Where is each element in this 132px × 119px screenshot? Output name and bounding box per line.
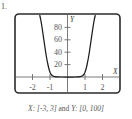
y-tick-label-80: 80 xyxy=(54,23,62,32)
y-tick-label-60: 60 xyxy=(54,35,62,44)
calculator-screen: 20 40 60 80 -2 -1 1 2 Y X xyxy=(14,13,121,94)
x-axis-label: X xyxy=(112,67,118,76)
x-tick-label-2: 2 xyxy=(101,83,105,92)
caption-y-range: Y: [0, 100] xyxy=(71,104,104,113)
figure-container: 1. 20 40 60 80 -2 -1 xyxy=(0,0,132,119)
graph-svg: 20 40 60 80 -2 -1 1 2 Y X xyxy=(14,13,121,94)
y-tick-label-20: 20 xyxy=(54,60,62,69)
viewing-window-caption: X: [-3, 3] and Y: [0, 100] xyxy=(0,104,132,113)
x-tick-label-minus2: -2 xyxy=(29,83,36,92)
caption-conjunction: and xyxy=(57,104,72,113)
y-tick-label-40: 40 xyxy=(54,48,62,57)
x-tick-label-1: 1 xyxy=(83,83,87,92)
x-tick-label-minus1: -1 xyxy=(47,83,54,92)
caption-x-range: X: [-3, 3] xyxy=(28,104,57,113)
item-number: 1. xyxy=(1,2,7,12)
